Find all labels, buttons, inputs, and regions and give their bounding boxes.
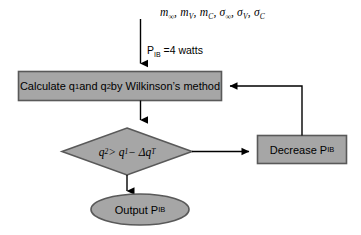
input-variables-label: m∞, mV, mC, σ∞, σV, σC (160, 6, 265, 21)
output-label: Output PIB (91, 194, 189, 225)
arrow-feedback-loop (230, 86, 302, 136)
flowchart-canvas: m∞, mV, mC, σ∞, σV, σC PIB =4 watts Calc… (0, 0, 361, 235)
initial-power-label: PIB =4 watts (147, 44, 203, 58)
process-label: Calculate q1 and q2 by Wilkinson’s metho… (18, 71, 222, 101)
feedback-label: Decrease PIB (257, 135, 347, 164)
decision-label: q2 > q1 − ΔqT (62, 128, 192, 175)
